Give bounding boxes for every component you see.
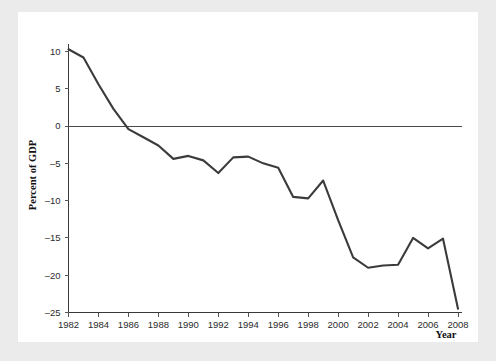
y-tick-label: 5 bbox=[55, 83, 60, 94]
x-tick-label: 2002 bbox=[358, 319, 379, 330]
y-axis-ticks: 1050–5–10–15–20–25 bbox=[45, 46, 69, 318]
x-tick-label: 2006 bbox=[417, 319, 438, 330]
y-tick-label: 0 bbox=[55, 120, 60, 131]
x-tick-label: 1986 bbox=[118, 319, 139, 330]
y-tick-label: –25 bbox=[45, 307, 61, 318]
x-tick-label: 2008 bbox=[447, 319, 468, 330]
x-tick-label: 1982 bbox=[58, 319, 79, 330]
x-tick-label: 1998 bbox=[298, 319, 319, 330]
y-tick-label: –20 bbox=[45, 270, 61, 281]
y-tick-label: –15 bbox=[45, 232, 61, 243]
x-tick-label: 1996 bbox=[268, 319, 289, 330]
y-tick-label: 10 bbox=[50, 46, 61, 57]
x-tick-label: 1984 bbox=[88, 319, 109, 330]
x-tick-label: 2004 bbox=[388, 319, 409, 330]
x-tick-label: 2000 bbox=[328, 319, 349, 330]
figure-root: Percent of GDP Year 1050–5–10–15–20–25 1… bbox=[0, 0, 496, 361]
line-chart: Percent of GDP Year 1050–5–10–15–20–25 1… bbox=[0, 0, 496, 361]
x-axis-title: Year bbox=[436, 329, 457, 340]
x-tick-label: 1988 bbox=[148, 319, 169, 330]
x-tick-label: 1990 bbox=[178, 319, 199, 330]
y-tick-label: –10 bbox=[45, 195, 61, 206]
y-tick-label: –5 bbox=[50, 158, 61, 169]
x-tick-label: 1992 bbox=[208, 319, 229, 330]
x-axis-ticks: 1982198419861988199019921994199619982000… bbox=[58, 313, 469, 330]
x-tick-label: 1994 bbox=[238, 319, 259, 330]
series-line-percent-of-gdp bbox=[69, 49, 459, 309]
y-axis-title: Percent of GDP bbox=[27, 139, 38, 210]
